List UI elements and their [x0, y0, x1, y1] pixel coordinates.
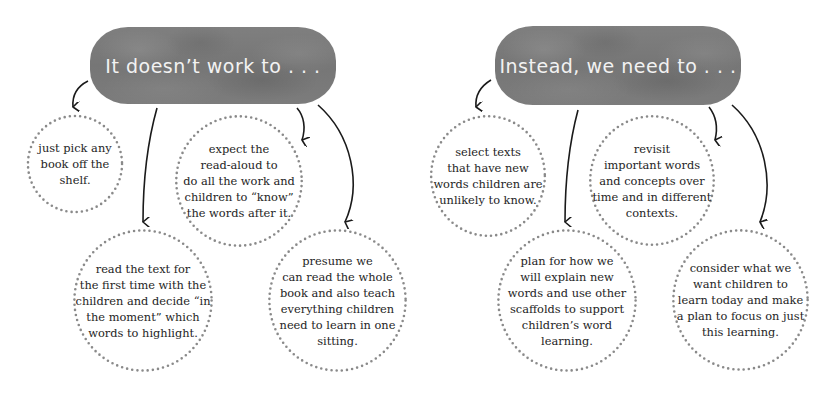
heading-banner-right: Instead, we need to . . .	[495, 26, 741, 105]
bubble-presume-whole-book: presume we can read the whole book and a…	[268, 229, 407, 372]
bubble-text: revisit important words and concepts ove…	[593, 141, 712, 221]
arrow-icon	[143, 108, 157, 222]
bubble-text: select texts that have new words childre…	[433, 144, 542, 208]
bubble-text: presume we can read the whole book and a…	[280, 253, 396, 349]
bubble-text: plan for how we will explain new words a…	[508, 253, 626, 349]
heading-left: It doesn’t work to . . .	[105, 55, 320, 77]
heading-right: Instead, we need to . . .	[499, 55, 736, 77]
bubble-expect-read-aloud: expect the read-aloud to do all the work…	[175, 115, 303, 247]
heading-banner-left: It doesn’t work to . . .	[90, 27, 336, 104]
bubble-text: read the text for the first time with th…	[76, 261, 211, 341]
bubble-text: expect the read-aloud to do all the work…	[183, 141, 295, 221]
bubble-read-text-first-time: read the text for the first time with th…	[73, 229, 213, 372]
bubble-revisit-words: revisit important words and concepts ove…	[589, 115, 715, 246]
bubble-consider-learning: consider what we want children to learn …	[672, 229, 809, 371]
arrow-icon	[318, 105, 353, 222]
bubble-text: consider what we want children to learn …	[677, 260, 805, 340]
bubble-plan-explain-words: plan for how we will explain new words a…	[497, 229, 637, 372]
bubble-select-texts: select texts that have new words childre…	[430, 115, 546, 237]
bubble-text: just pick any book off the shelf.	[38, 140, 111, 188]
arrow-icon	[732, 105, 767, 222]
arrow-icon	[476, 80, 491, 107]
arrow-icon	[565, 110, 578, 222]
diagram: It doesn’t work to . . . Instead, we nee…	[0, 0, 830, 394]
arrow-icon	[73, 81, 88, 107]
bubble-pick-any-book: just pick any book off the shelf.	[27, 115, 123, 213]
